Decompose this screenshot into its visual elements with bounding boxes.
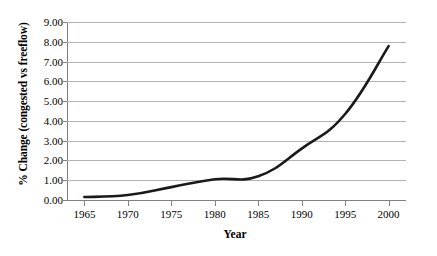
y-tick-label: 7.00 <box>29 57 63 68</box>
y-tick-label: 5.00 <box>29 96 63 107</box>
y-tick-label: 8.00 <box>29 37 63 48</box>
x-tick-mark <box>345 201 346 206</box>
x-tick-label: 1975 <box>151 208 191 220</box>
x-tick-label: 2000 <box>369 208 409 220</box>
y-tick-label: 9.00 <box>29 17 63 28</box>
y-tick-label: 0.00 <box>29 195 63 206</box>
x-tick-label: 1985 <box>238 208 278 220</box>
x-tick-label: 1980 <box>195 208 235 220</box>
x-tick-label: 1995 <box>325 208 365 220</box>
x-tick-mark <box>128 201 129 206</box>
y-tick-label: 1.00 <box>29 175 63 186</box>
x-axis-title: Year <box>60 228 410 240</box>
x-tick-label: 1990 <box>282 208 322 220</box>
y-tick-label: 2.00 <box>29 155 63 166</box>
data-line-path <box>84 46 388 197</box>
x-tick-mark <box>389 201 390 206</box>
x-tick-mark <box>302 201 303 206</box>
line-chart: % Change (congested vs freeflow) 0.001.0… <box>0 0 437 256</box>
y-tick-label: 4.00 <box>29 116 63 127</box>
data-series-line <box>67 22 406 200</box>
x-tick-mark <box>258 201 259 206</box>
plot-area <box>67 22 406 200</box>
gridline <box>67 200 406 201</box>
y-tick-label: 3.00 <box>29 136 63 147</box>
x-tick-mark <box>215 201 216 206</box>
x-tick-mark <box>84 201 85 206</box>
x-tick-label: 1965 <box>64 208 104 220</box>
x-tick-mark <box>171 201 172 206</box>
x-tick-label: 1970 <box>108 208 148 220</box>
y-tick-label: 6.00 <box>29 76 63 87</box>
